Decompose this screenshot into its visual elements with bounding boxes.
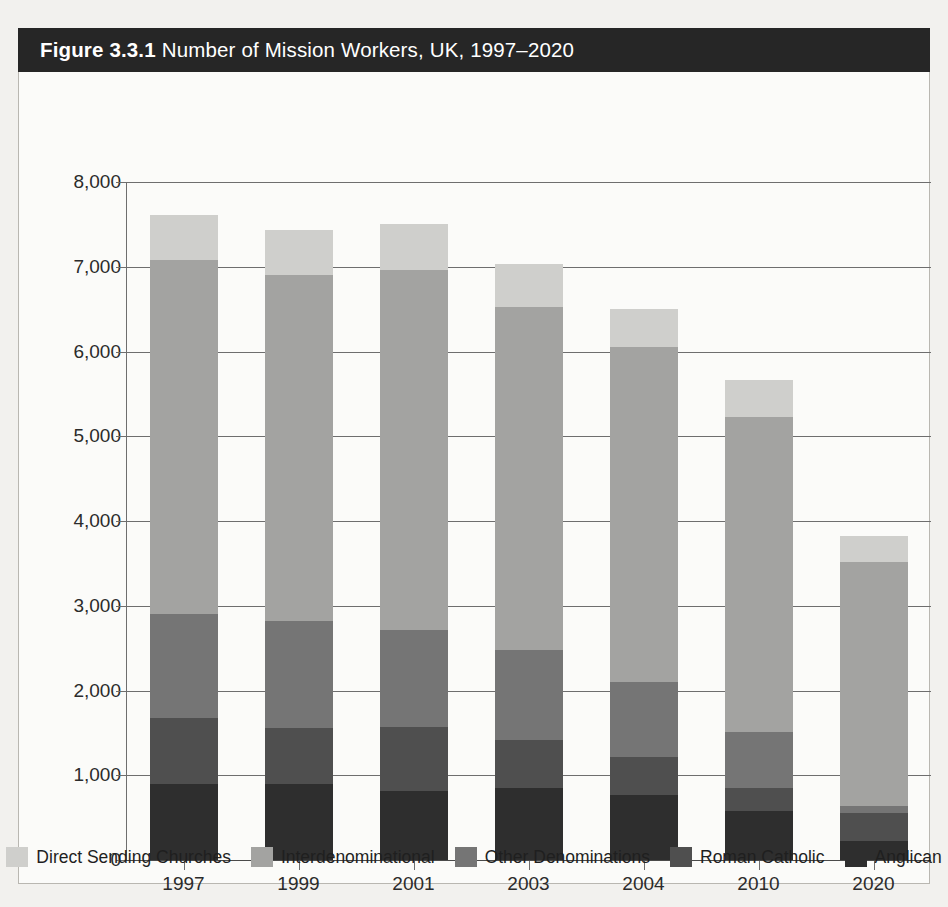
- bar-stack: [380, 224, 448, 860]
- bar-segment-other-denominations[interactable]: [840, 806, 908, 813]
- y-tick-label: 2,000: [49, 680, 121, 702]
- bar-segment-interdenominational[interactable]: [495, 307, 563, 649]
- bar-segment-interdenominational[interactable]: [265, 275, 333, 621]
- bar-segment-direct-sending-churches[interactable]: [495, 264, 563, 307]
- y-tick-label: 4,000: [49, 510, 121, 532]
- bar-segment-roman-catholic[interactable]: [495, 740, 563, 788]
- legend-item-interdenominational[interactable]: Interdenominational: [251, 847, 435, 868]
- bar-segment-interdenominational[interactable]: [150, 260, 218, 614]
- y-tick-label: 6,000: [49, 341, 121, 363]
- y-tick-mark: [116, 182, 126, 183]
- legend-item-direct-sending-churches[interactable]: Direct Sending Churches: [6, 847, 231, 868]
- legend-item-other-denominations[interactable]: Other Denominations: [455, 847, 650, 868]
- chart-canvas: 01,0002,0003,0004,0005,0006,0007,0008,00…: [19, 72, 929, 883]
- y-tick-mark: [116, 775, 126, 776]
- y-tick-label: 5,000: [49, 425, 121, 447]
- bar-segment-interdenominational[interactable]: [725, 417, 793, 732]
- bar-segment-direct-sending-churches[interactable]: [380, 224, 448, 270]
- bar-segment-other-denominations[interactable]: [380, 630, 448, 727]
- bar-segment-direct-sending-churches[interactable]: [840, 536, 908, 561]
- bar-group-2010[interactable]: [725, 182, 793, 860]
- x-tick-label-1997: 1997: [162, 873, 204, 895]
- page-title: Figure 3.3.1Number of Mission Workers, U…: [40, 38, 574, 62]
- y-tick-label: 7,000: [49, 256, 121, 278]
- bar-segment-interdenominational[interactable]: [840, 562, 908, 806]
- bars-layer: [126, 182, 931, 860]
- legend-label: Anglican: [875, 847, 942, 868]
- legend-swatch-icon: [845, 847, 867, 867]
- x-tick-label-1999: 1999: [277, 873, 319, 895]
- legend-swatch-icon: [455, 847, 477, 867]
- bar-segment-roman-catholic[interactable]: [725, 788, 793, 811]
- bar-segment-roman-catholic[interactable]: [265, 728, 333, 784]
- bar-group-1999[interactable]: [265, 182, 333, 860]
- bar-stack: [495, 264, 563, 860]
- legend-swatch-icon: [670, 847, 692, 867]
- bar-segment-roman-catholic[interactable]: [610, 757, 678, 795]
- bar-stack: [265, 230, 333, 860]
- bar-segment-direct-sending-churches[interactable]: [725, 380, 793, 417]
- bar-group-2001[interactable]: [380, 182, 448, 860]
- x-tick-label-2001: 2001: [392, 873, 434, 895]
- y-tick-mark: [116, 691, 126, 692]
- legend-label: Interdenominational: [281, 847, 435, 868]
- x-tick-label-2004: 2004: [622, 873, 664, 895]
- bar-stack: [150, 215, 218, 860]
- legend-swatch-icon: [251, 847, 273, 867]
- bar-segment-direct-sending-churches[interactable]: [610, 309, 678, 347]
- bar-group-1997[interactable]: [150, 182, 218, 860]
- legend-item-roman-catholic[interactable]: Roman Catholic: [670, 847, 825, 868]
- legend-item-anglican[interactable]: Anglican: [845, 847, 942, 868]
- y-tick-label: 3,000: [49, 595, 121, 617]
- bar-stack: [725, 380, 793, 860]
- bar-segment-other-denominations[interactable]: [150, 614, 218, 718]
- legend-label: Direct Sending Churches: [36, 847, 231, 868]
- bar-segment-other-denominations[interactable]: [610, 682, 678, 757]
- x-tick-label-2010: 2010: [737, 873, 779, 895]
- bar-group-2020[interactable]: [840, 182, 908, 860]
- bar-group-2004[interactable]: [610, 182, 678, 860]
- bar-segment-interdenominational[interactable]: [610, 347, 678, 682]
- bar-segment-interdenominational[interactable]: [380, 270, 448, 630]
- y-tick-label: 8,000: [49, 171, 121, 193]
- y-tick-mark: [116, 436, 126, 437]
- bar-segment-other-denominations[interactable]: [725, 732, 793, 788]
- bar-stack: [610, 309, 678, 860]
- chart-legend: Direct Sending ChurchesInterdenomination…: [19, 840, 929, 874]
- bar-segment-roman-catholic[interactable]: [840, 813, 908, 841]
- bar-segment-direct-sending-churches[interactable]: [150, 215, 218, 260]
- bar-stack: [840, 536, 908, 860]
- y-axis: 01,0002,0003,0004,0005,0006,0007,0008,00…: [41, 72, 121, 883]
- x-tick-label-2003: 2003: [507, 873, 549, 895]
- y-tick-mark: [116, 606, 126, 607]
- bar-segment-other-denominations[interactable]: [495, 650, 563, 740]
- bar-group-2003[interactable]: [495, 182, 563, 860]
- y-tick-mark: [116, 521, 126, 522]
- figure-caption: Number of Mission Workers, UK, 1997–2020: [162, 38, 574, 61]
- legend-label: Roman Catholic: [700, 847, 825, 868]
- y-tick-mark: [116, 352, 126, 353]
- figure-title-bar: Figure 3.3.1Number of Mission Workers, U…: [18, 28, 930, 72]
- legend-swatch-icon: [6, 847, 28, 867]
- legend-label: Other Denominations: [485, 847, 650, 868]
- figure-number: Figure 3.3.1: [40, 38, 156, 61]
- x-tick-label-2020: 2020: [852, 873, 894, 895]
- y-tick-mark: [116, 267, 126, 268]
- bar-segment-direct-sending-churches[interactable]: [265, 230, 333, 275]
- y-tick-label: 1,000: [49, 764, 121, 786]
- bar-segment-other-denominations[interactable]: [265, 621, 333, 728]
- bar-segment-roman-catholic[interactable]: [380, 727, 448, 791]
- bar-segment-roman-catholic[interactable]: [150, 718, 218, 783]
- figure-root: Figure 3.3.1Number of Mission Workers, U…: [0, 0, 948, 907]
